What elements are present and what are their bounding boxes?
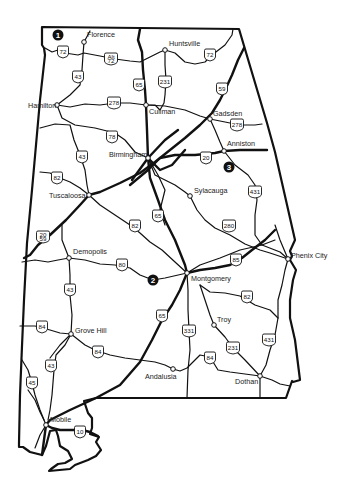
shield-label: 431 [250, 188, 261, 195]
route-shield-85: 85 [231, 254, 242, 266]
city-label: Troy [217, 315, 232, 324]
city-dot-icon [69, 332, 74, 337]
route-shield-65: 65 [134, 79, 145, 91]
shield-label: 82 [54, 174, 61, 181]
route-shield-72: 72 [58, 46, 69, 58]
city-label: Mobile [50, 415, 71, 424]
route-shield-231: 231 [159, 76, 172, 88]
route-shield-43: 43 [65, 284, 76, 296]
shield-label: 43 [48, 362, 55, 369]
shield-label: 43 [79, 153, 86, 160]
city-dothan: Dothan [235, 374, 262, 386]
shield-label: 20 [203, 154, 210, 161]
city-dot-icon [188, 194, 193, 199]
route-shield-43: 43 [46, 360, 57, 372]
city-dot-icon [212, 323, 217, 328]
route-shield-82: 82 [52, 172, 63, 184]
city-label: Anniston [227, 139, 255, 148]
route-shield-10: 10 [75, 426, 86, 438]
shield-label: 82 [132, 222, 139, 229]
route-shield-331: 331 [183, 325, 196, 337]
city-label: Phenix City [291, 251, 328, 260]
route-shield-alt-72: Alt72 [105, 53, 118, 66]
shield-label: 80 [119, 261, 126, 268]
city-label: Demopolis [73, 247, 107, 256]
shield-label: 278 [232, 121, 243, 128]
shield-label: 280 [224, 222, 235, 229]
city-dot-icon [258, 374, 263, 379]
route-shield-78: 78 [107, 131, 118, 143]
shield-label: 82 [244, 293, 251, 300]
city-label: Gadsden [213, 109, 242, 118]
city-label: Grove Hill [75, 326, 107, 335]
map-overlay: FlorenceHuntsvilleHamiltonCullmanGadsden… [0, 0, 345, 498]
shield-label: 72 [108, 57, 115, 64]
city-label: Huntsville [169, 39, 200, 48]
city-label: Sylacauga [194, 186, 228, 195]
shield-label: 231 [228, 344, 239, 351]
city-dot-icon [171, 367, 176, 372]
route-shield-84: 84 [205, 352, 216, 364]
route-shield-65: 65 [157, 310, 168, 322]
city-montgomery: Montgomery [185, 271, 232, 283]
city-anniston: Anniston [222, 139, 255, 153]
city-label: Dothan [235, 377, 258, 386]
shield-label: 431 [264, 336, 275, 343]
city-dot-icon [222, 149, 227, 154]
city-phenix-city: Phenix City [286, 251, 328, 261]
route-shield-20-59: 2059 [37, 231, 50, 244]
route-shield-65: 65 [153, 210, 164, 222]
cities-layer: FlorenceHuntsvilleHamiltonCullmanGadsden… [28, 30, 328, 427]
shield-label: 59 [219, 85, 226, 92]
city-label: Florence [87, 30, 115, 39]
city-dot-icon [185, 271, 190, 276]
city-dot-icon [82, 40, 87, 45]
city-grove-hill: Grove Hill [69, 326, 107, 336]
city-dot-icon [44, 423, 49, 428]
route-shield-59: 59 [217, 83, 228, 95]
city-hamilton: Hamilton [28, 101, 59, 110]
route-shield-280: 280 [223, 220, 236, 232]
marker-label: 3 [227, 163, 232, 172]
shield-label: 331 [184, 327, 195, 334]
city-mobile: Mobile [44, 415, 71, 427]
city-birmingham: Birmingham [109, 150, 150, 160]
shield-label: 72 [207, 51, 214, 58]
city-label: Montgomery [191, 274, 231, 283]
city-dot-icon [67, 256, 72, 261]
shield-label: 72 [60, 48, 67, 55]
shield-label: 10 [77, 428, 84, 435]
route-shield-431: 431 [263, 334, 276, 346]
city-demopolis: Demopolis [67, 247, 108, 260]
route-shield-82: 82 [242, 291, 253, 303]
city-huntsville: Huntsville [163, 39, 200, 52]
city-dot-icon [208, 117, 213, 122]
route-shield-84: 84 [93, 346, 104, 358]
route-shield-80: 80 [117, 259, 128, 271]
numbered-marker-3: 3 [224, 162, 235, 173]
shield-label: 84 [207, 354, 214, 361]
shield-label: 65 [155, 212, 162, 219]
route-shield-82: 82 [130, 220, 141, 232]
city-label: Hamilton [28, 101, 56, 110]
city-dot-icon [286, 257, 291, 262]
shield-label: 43 [75, 73, 82, 80]
shield-label: 231 [160, 78, 171, 85]
city-label: Tuscaloosa [49, 191, 86, 200]
route-shield-45: 45 [27, 377, 38, 389]
city-troy: Troy [212, 315, 232, 327]
city-label: Birmingham [109, 150, 147, 159]
numbered-marker-2: 2 [148, 275, 159, 286]
marker-label: 2 [151, 276, 156, 285]
route-shield-43: 43 [77, 151, 88, 163]
city-tuscaloosa: Tuscaloosa [49, 191, 91, 200]
city-label: Cullman [149, 107, 175, 116]
route-shield-231: 231 [227, 342, 240, 354]
route-shield-43: 43 [73, 71, 84, 83]
shield-label: 45 [29, 379, 36, 386]
city-dot-icon [87, 193, 92, 198]
city-sylacauga: Sylacauga [188, 186, 228, 198]
shield-label: 65 [136, 81, 143, 88]
shield-label: 78 [109, 133, 116, 140]
shield-label: 59 [40, 235, 47, 242]
